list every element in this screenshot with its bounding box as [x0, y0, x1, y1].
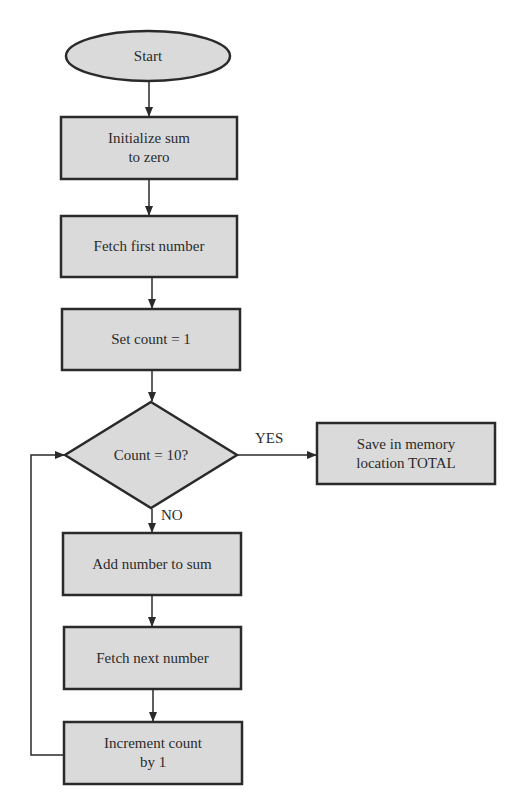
set-count-label: Set count = 1	[62, 309, 240, 370]
loop-back-arrow	[31, 455, 64, 755]
init-label: Initialize sum to zero	[61, 117, 237, 179]
increment-label: Increment count by 1	[64, 722, 242, 784]
fetch-first-label: Fetch first number	[61, 216, 237, 277]
add-label: Add number to sum	[63, 533, 241, 595]
save-label: Save in memory location TOTAL	[317, 423, 495, 484]
yes-label: YES	[255, 430, 283, 447]
fetch-next-label: Fetch next number	[64, 627, 241, 689]
start-label: Start	[66, 32, 230, 80]
decision-label: Count = 10?	[65, 430, 237, 480]
no-label: NO	[161, 507, 183, 524]
